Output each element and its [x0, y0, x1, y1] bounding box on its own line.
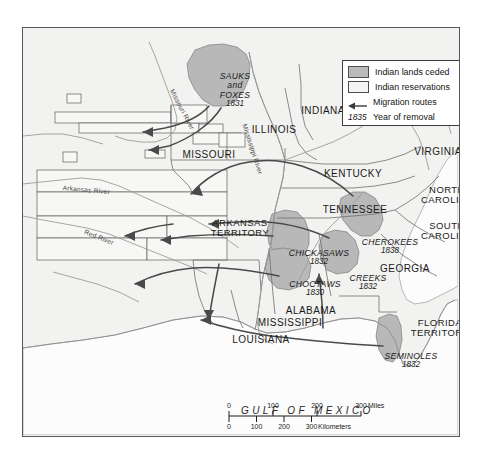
tribe-year-chickasaws: 1832 [289, 258, 350, 267]
scale-miles-unit: Miles [368, 402, 384, 409]
tribe-group-sauks-and-foxes: SAUKS and FOXES1831 [220, 72, 251, 109]
state-label-tennessee: TENNESSEE [323, 205, 388, 216]
migration-arrow-icon [348, 97, 367, 107]
legend-label-reservations: Indian reservations [375, 82, 450, 92]
state-label-louisiana: LOUISIANA [232, 335, 289, 346]
tribe-name-sauks-and-foxes: SAUKS and FOXES [220, 72, 251, 100]
legend-label-migration: Migration routes [373, 97, 437, 107]
scale-km-tick-0: 0 [227, 423, 231, 430]
tribe-year-seminoles: 1832 [385, 361, 438, 370]
scale-km-tick-300: 300 [306, 423, 318, 430]
tribe-year-creeks: 1832 [349, 283, 386, 292]
state-label-arkansas-territory: ARKANSAS TERRITORY [211, 218, 270, 239]
scale-miles-tick-0: 0 [227, 402, 231, 409]
legend-row-migration: Migration routes [348, 95, 460, 109]
map-page: INDIANAILLINOISMISSOURIVIRGINIAKENTUCKYT… [0, 0, 483, 458]
tribe-year-choctaws: 1830 [289, 289, 341, 298]
tribe-year-cherokees: 1838 [362, 247, 419, 256]
state-label-florida-territory: FLORIDA TERRITORY [411, 318, 460, 339]
scale-km-tick-100: 100 [251, 423, 263, 430]
scale-miles-tick-200: 200 [311, 402, 323, 409]
state-label-georgia: GEORGIA [380, 264, 430, 275]
legend-row-year: 1835 Year of removal [348, 110, 460, 124]
legend-row-ceded: Indian lands ceded [348, 65, 460, 79]
state-label-missouri: MISSOURI [182, 150, 235, 161]
tribe-group-chickasaws: CHICKASAWS1832 [289, 249, 350, 267]
scale-bar-artwork [225, 402, 365, 436]
tribe-group-choctaws: CHOCTAWS1830 [289, 280, 341, 298]
state-label-illinois: ILLINOIS [252, 125, 297, 136]
scale-kilometers-unit: Kilometers [318, 423, 351, 430]
scale-miles-tick-300: 300 [355, 402, 367, 409]
tribe-group-seminoles: SEMINOLES1832 [385, 352, 438, 370]
map-legend: Indian lands ceded Indian reservations M… [342, 60, 460, 126]
legend-label-ceded: Indian lands ceded [375, 67, 450, 77]
state-label-mississippi: MISSISSIPPI [258, 318, 322, 329]
scale-bars: 0100200300Miles 0100200300Kilometers [225, 402, 365, 436]
state-label-south-carolina: SOUTH CAROLINA [421, 221, 460, 242]
state-label-indiana: INDIANA [301, 106, 345, 117]
tribe-year-sauks-and-foxes: 1831 [220, 99, 251, 108]
state-label-alabama: ALABAMA [286, 306, 336, 317]
tribe-group-creeks: CREEKS1832 [349, 274, 386, 292]
legend-label-year: Year of removal [373, 112, 435, 122]
state-label-virginia: VIRGINIA [414, 147, 460, 158]
state-label-north-carolina: NORTH CAROLINA [421, 185, 460, 206]
scale-km-tick-200: 200 [278, 423, 290, 430]
legend-year-sample: 1835 [348, 112, 367, 122]
map-frame: INDIANAILLINOISMISSOURIVIRGINIAKENTUCKYT… [22, 27, 460, 437]
state-label-kentucky: KENTUCKY [324, 169, 382, 180]
legend-row-reservations: Indian reservations [348, 80, 460, 94]
ceded-lands-swatch [348, 66, 369, 78]
scale-miles-tick-100: 100 [267, 402, 279, 409]
tribe-group-cherokees: CHEROKEES1838 [362, 238, 419, 256]
reservations-swatch [348, 81, 369, 93]
